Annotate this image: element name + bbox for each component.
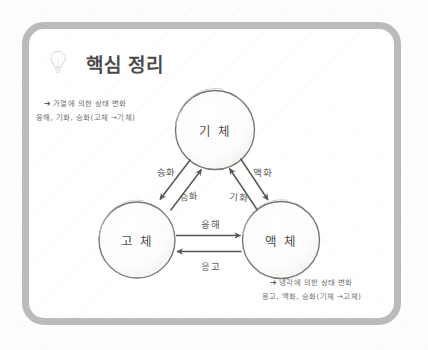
annotation-heating-line1: 가열에 의한 상태 변화 <box>53 99 127 108</box>
node-label-liquid: 액 체 <box>265 231 297 250</box>
page-title: 핵심 정리 <box>86 50 163 77</box>
arrow-right-icon: ➜ <box>270 278 277 287</box>
edge-label-freezing: 응고 <box>201 259 220 273</box>
edge-label-vaporization: 기화 <box>229 189 249 204</box>
card-header: 핵심 정리 <box>48 46 163 80</box>
arrow-right-icon: ➜ <box>44 99 51 108</box>
annotation-heating: ➜가열에 의한 상태 변화 융해, 기화, 승화(고체 →기체) <box>36 97 135 125</box>
edge-label-deposition: 승화 <box>156 165 176 180</box>
lightbulb-icon <box>48 50 68 76</box>
note-card-body: 핵심 정리 ➜가열에 의한 상태 변화 융해, 기화, 승화(고체 →기체) ➜… <box>0 0 428 350</box>
node-label-gas: 기 체 <box>199 121 231 140</box>
node-label-solid: 고 체 <box>121 231 153 250</box>
annotation-heating-line2: 융해, 기화, 승화(고체 →기체) <box>36 111 135 125</box>
annotation-cooling: ➜냉각에 의한 상태 변화 응고, 액화, 승화(기체 →고체) <box>262 276 361 304</box>
annotation-cooling-line1: 냉각에 의한 상태 변화 <box>279 278 353 287</box>
annotation-cooling-line2: 응고, 액화, 승화(기체 →고체) <box>262 290 361 304</box>
edge-label-melting: 융해 <box>201 217 220 231</box>
edge-label-sublimation: 승화 <box>179 188 200 204</box>
edge-label-condensation: 액화 <box>253 165 273 180</box>
